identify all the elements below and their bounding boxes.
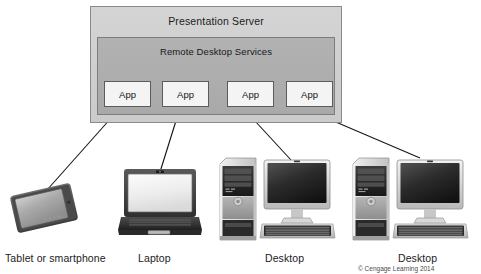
app-box-1: App [104,81,151,107]
presentation-server-title: Presentation Server [91,15,341,27]
app-box-4: App [286,81,333,107]
tablet-icon [8,182,80,234]
app-box-2: App [162,81,209,107]
copyright-notice: © Cengage Learning 2014 [358,265,434,272]
desktop-icon [216,152,336,244]
device-label-desktop-2: Desktop [398,252,437,264]
diagram-canvas: Presentation Server Remote Desktop Servi… [0,0,481,274]
laptop-icon [118,163,202,239]
app-box-3: App [227,81,274,107]
remote-desktop-services-title: Remote Desktop Services [98,46,334,57]
desktop-icon [349,152,469,244]
device-label-tablet: Tablet or smartphone [5,252,106,264]
device-label-laptop: Laptop [138,252,171,264]
device-label-desktop-1: Desktop [265,252,304,264]
